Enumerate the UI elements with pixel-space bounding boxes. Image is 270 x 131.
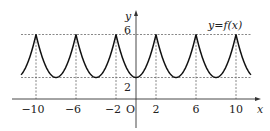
x-tick-label: 10: [229, 103, 243, 116]
x-axis-arrow-icon: [255, 97, 261, 101]
y-tick-2: 2: [124, 81, 131, 94]
y-axis-arrow-icon: [134, 10, 138, 16]
x-tick-label: −2: [105, 103, 121, 116]
y-tick-6: 6: [124, 24, 131, 37]
x-tick-label: 2: [153, 103, 160, 116]
chart: −10−6−22610 6 2 O x y y=f(x): [0, 0, 270, 131]
x-tick-label: 6: [193, 103, 200, 116]
x-axis-label: x: [257, 103, 264, 116]
x-tick-label: −10: [21, 103, 44, 116]
origin-label: O: [126, 103, 135, 116]
x-tick-label: −6: [65, 103, 81, 116]
y-axis-label: y: [124, 10, 132, 23]
function-label: y=f(x): [207, 19, 242, 32]
